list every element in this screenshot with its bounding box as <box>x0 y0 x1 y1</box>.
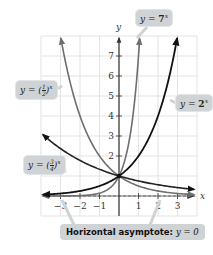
exponential-graph: xy−3−2−1123234567 <box>0 0 213 255</box>
label-three-quarter-x: y = (34)x <box>24 156 65 174</box>
label-7x: y = 7x <box>136 10 172 26</box>
label-2x: y = 2x <box>176 95 212 111</box>
x-tick-label: 3 <box>175 201 181 211</box>
intersection-point <box>117 174 121 178</box>
asymptote-text: Horizontal asymptote: <box>66 227 176 237</box>
x-tick-label: 1 <box>136 201 142 211</box>
x-axis-label: x <box>200 191 205 201</box>
y-tick-label: 2 <box>108 151 114 161</box>
label-exp: x <box>165 12 168 19</box>
x-tick-label: −2 <box>73 201 86 211</box>
frac-den: 4 <box>50 166 54 172</box>
label-prefix: y = <box>20 85 38 95</box>
y-tick-label: 4 <box>108 111 114 121</box>
y-axis-label: y <box>115 22 122 32</box>
y-tick-label: 5 <box>108 91 114 101</box>
x-tick-label: −1 <box>93 201 106 211</box>
label-exp: x <box>205 97 208 104</box>
frac-den: 2 <box>42 91 46 97</box>
label-leader <box>62 200 74 225</box>
label-prefix: y = <box>140 14 158 24</box>
y-tick-label: 7 <box>108 51 114 61</box>
label-prefix: y = <box>180 99 198 109</box>
label-exp: x <box>49 83 52 90</box>
asymptote-eq: y = 0 <box>176 227 199 237</box>
asymptote-label: Horizontal asymptote: y = 0 <box>60 224 205 240</box>
label-exp: x <box>57 158 60 165</box>
y-tick-label: 3 <box>108 131 114 141</box>
label-prefix: y = <box>28 160 46 170</box>
y-tick-label: 6 <box>108 71 114 81</box>
label-half-x: y = (12)x <box>16 81 57 99</box>
